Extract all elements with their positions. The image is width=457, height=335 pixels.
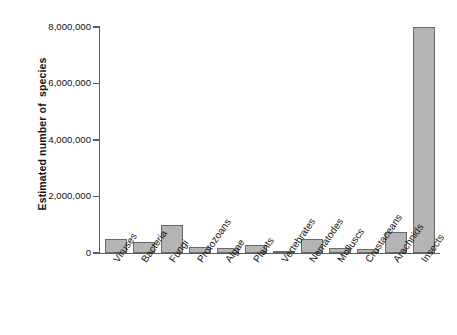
- y-tick-label-wrap: 0: [11, 247, 91, 259]
- y-tick-label: 6,000,000: [17, 77, 91, 88]
- y-tick-label-wrap: 6,000,000: [11, 77, 91, 89]
- y-tick-label: 2,000,000: [17, 190, 91, 201]
- y-tick-label: 0: [17, 247, 91, 258]
- species-bar-chart: Estimated number of species 02,000,0004,…: [0, 0, 457, 335]
- bar: [413, 27, 435, 253]
- y-tick-label: 4,000,000: [17, 134, 91, 145]
- y-tick-label: 8,000,000: [17, 21, 91, 32]
- y-tick-label-wrap: 8,000,000: [11, 21, 91, 33]
- plot-area: [99, 27, 435, 253]
- y-tick-label-wrap: 4,000,000: [11, 134, 91, 146]
- y-tick-label-wrap: 2,000,000: [11, 190, 91, 202]
